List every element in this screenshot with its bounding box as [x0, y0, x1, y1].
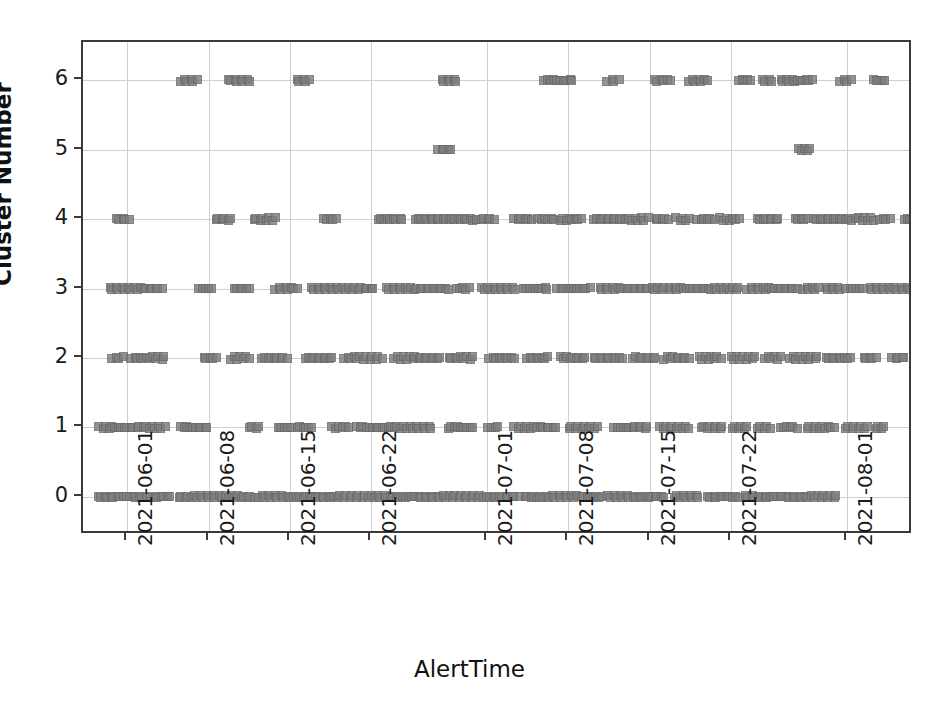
y-tick-mark-0	[74, 494, 81, 496]
data-point	[577, 214, 586, 223]
data-point	[666, 76, 675, 85]
data-point	[615, 75, 624, 84]
data-point	[207, 284, 216, 293]
data-point	[567, 76, 576, 85]
data-point	[746, 76, 755, 85]
data-point	[831, 491, 840, 500]
data-point	[879, 422, 888, 431]
data-point	[909, 284, 911, 293]
data-point	[543, 352, 552, 361]
x-tick-label-7: 2021-07-22	[737, 430, 761, 546]
x-tick-mark-5	[565, 533, 567, 540]
y-tick-label-6: 6	[55, 66, 68, 90]
data-point	[872, 353, 881, 362]
x-axis-label: AlertTime	[0, 656, 939, 682]
data-point	[245, 354, 254, 363]
y-tick-mark-4	[74, 216, 81, 218]
data-point	[468, 423, 477, 432]
data-point	[226, 214, 235, 223]
data-point	[378, 354, 387, 363]
data-point	[703, 76, 712, 85]
data-point	[880, 76, 889, 85]
x-tick-label-6: 2021-07-15	[656, 430, 680, 546]
data-point	[847, 75, 856, 84]
x-tick-label-1: 2021-06-08	[215, 430, 239, 546]
data-point	[245, 77, 254, 86]
data-point	[245, 284, 254, 293]
data-point	[125, 215, 134, 224]
data-point	[805, 144, 814, 153]
x-tick-mark-4	[484, 533, 486, 540]
data-point	[426, 424, 435, 433]
data-point	[750, 352, 759, 361]
y-tick-mark-1	[74, 424, 81, 426]
data-point	[905, 285, 911, 294]
x-tick-label-0: 2021-06-01	[133, 430, 157, 546]
data-point	[684, 424, 693, 433]
data-point	[158, 284, 167, 293]
y-tick-label-5: 5	[55, 136, 68, 160]
data-point	[767, 77, 776, 86]
data-point	[808, 75, 817, 84]
x-tick-label-2: 2021-06-15	[296, 430, 320, 546]
data-point	[793, 424, 802, 433]
data-point	[271, 213, 280, 222]
y-tick-label-0: 0	[55, 483, 68, 507]
data-point	[650, 353, 659, 362]
data-point	[446, 145, 455, 154]
data-point	[830, 423, 839, 432]
data-point	[693, 493, 702, 502]
data-point	[773, 214, 782, 223]
data-point	[193, 75, 202, 84]
data-point	[909, 215, 911, 224]
y-tick-mark-6	[74, 77, 81, 79]
data-point	[161, 422, 170, 431]
data-point	[510, 354, 519, 363]
y-tick-label-3: 3	[55, 275, 68, 299]
y-tick-mark-5	[74, 147, 81, 149]
data-point	[165, 492, 174, 501]
data-point	[717, 354, 726, 363]
data-point	[685, 354, 694, 363]
data-point	[905, 215, 911, 224]
data-point	[642, 422, 651, 431]
x-tick-mark-0	[124, 533, 126, 540]
data-point	[465, 283, 474, 292]
data-point	[159, 352, 168, 361]
data-point	[305, 75, 314, 84]
data-point	[212, 353, 221, 362]
x-tick-mark-6	[647, 533, 649, 540]
x-tick-label-5: 2021-07-08	[574, 430, 598, 546]
data-point	[368, 284, 377, 293]
scatter-chart-figure: Cluster Number 0123456 2021-06-012021-06…	[0, 0, 939, 706]
gridline-horizontal-5	[83, 150, 909, 151]
data-point	[899, 353, 908, 362]
data-point	[812, 352, 821, 361]
x-tick-mark-7	[728, 533, 730, 540]
x-tick-label-4: 2021-07-01	[493, 430, 517, 546]
data-point	[735, 214, 744, 223]
data-point	[776, 352, 785, 361]
data-point	[586, 283, 595, 292]
x-tick-mark-2	[287, 533, 289, 540]
data-point	[327, 353, 336, 362]
data-point	[618, 354, 627, 363]
y-tick-label-1: 1	[55, 413, 68, 437]
data-point	[468, 352, 477, 361]
y-tick-label-4: 4	[55, 205, 68, 229]
y-tick-mark-3	[74, 286, 81, 288]
data-point	[510, 285, 519, 294]
data-point	[451, 77, 460, 86]
data-point	[332, 214, 341, 223]
data-point	[283, 354, 292, 363]
x-tick-mark-1	[206, 533, 208, 540]
x-tick-label-8: 2021-08-01	[853, 430, 877, 546]
x-tick-mark-3	[368, 533, 370, 540]
y-tick-label-2: 2	[55, 344, 68, 368]
y-axis-label: Cluster Number	[0, 82, 16, 286]
data-point	[542, 285, 551, 294]
x-tick-label-3: 2021-06-22	[377, 430, 401, 546]
data-point	[717, 422, 726, 431]
y-tick-mark-2	[74, 355, 81, 357]
data-point	[886, 214, 895, 223]
